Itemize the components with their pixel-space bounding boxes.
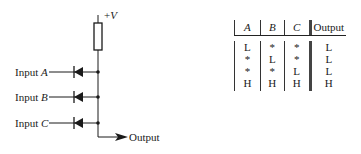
- cell-b: *: [260, 65, 284, 77]
- cell-b: H: [260, 77, 284, 91]
- truth-table-body: L * * L * L * L * * L L H H H H: [234, 41, 346, 91]
- cell-a: *: [234, 53, 260, 65]
- header-b: B: [260, 20, 284, 35]
- cell-a: H: [234, 77, 260, 91]
- diode-b-icon: [74, 92, 83, 102]
- table-row: L * * L: [234, 41, 346, 53]
- truth-table: A B C Output L * * L * L * L * * L L H H…: [234, 20, 346, 91]
- cell-c: *: [284, 41, 309, 53]
- output-label: Output: [129, 131, 160, 143]
- cell-a: *: [234, 65, 260, 77]
- truth-table-header: A B C Output: [234, 20, 346, 36]
- input-c-prefix: Input: [15, 117, 41, 129]
- table-row: * L * L: [234, 53, 346, 65]
- cell-b: *: [260, 41, 284, 53]
- input-b-prefix: Input: [15, 91, 41, 103]
- diode-a-icon: [74, 67, 83, 77]
- input-c-var: C: [41, 117, 48, 129]
- table-row: * * L L: [234, 65, 346, 77]
- header-c: C: [284, 20, 309, 35]
- cell-c: *: [284, 53, 309, 65]
- input-c-label: Input C: [15, 117, 48, 129]
- junction-a: [96, 70, 100, 74]
- input-b-var: B: [41, 91, 48, 103]
- cell-c: H: [284, 77, 309, 91]
- input-a-prefix: Input: [15, 66, 41, 78]
- input-a-var: A: [41, 66, 48, 78]
- junction-b: [96, 95, 100, 99]
- cell-b: L: [260, 53, 284, 65]
- cell-a: L: [234, 41, 260, 53]
- resistor: [94, 23, 102, 50]
- table-row: H H H H: [234, 77, 346, 91]
- header-output: Output: [309, 20, 346, 35]
- diode-c-icon: [74, 118, 83, 128]
- supply-label-var: V: [110, 9, 117, 21]
- input-b-label: Input B: [15, 91, 48, 103]
- header-a: A: [234, 20, 260, 35]
- cell-output: H: [309, 77, 346, 91]
- cell-output: L: [309, 65, 346, 77]
- input-a-label: Input A: [15, 66, 48, 78]
- supply-label: +V: [104, 9, 117, 21]
- cell-output: L: [309, 41, 346, 53]
- junction-c: [96, 121, 100, 125]
- cell-c: L: [284, 65, 309, 77]
- cell-output: L: [309, 53, 346, 65]
